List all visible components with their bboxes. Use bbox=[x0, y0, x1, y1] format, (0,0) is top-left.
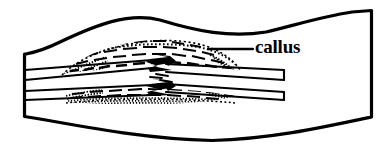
cortical-line-right-inner-lower bbox=[166, 84, 284, 92]
callus-label: callus bbox=[255, 36, 300, 58]
fracture-zigzag-upper bbox=[146, 54, 176, 72]
cortical-line-right-inner-upper bbox=[166, 72, 284, 80]
bone-fracture-illustration bbox=[0, 0, 391, 159]
fracture-gap-lines bbox=[150, 74, 172, 82]
figure-canvas: callus bbox=[0, 0, 391, 159]
